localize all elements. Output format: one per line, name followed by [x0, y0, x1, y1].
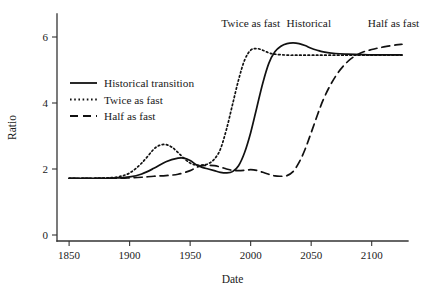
annotation-half-as-fast: Half as fast: [368, 17, 420, 29]
x-tick-label: 1900: [119, 249, 142, 261]
legend-label-half-as-fast: Half as fast: [104, 110, 156, 122]
x-tick-label: 1950: [179, 249, 202, 261]
y-tick-label: 6: [43, 31, 49, 43]
x-axis-ticks: 185019001950200020502100: [58, 241, 383, 261]
x-tick-label: 2050: [300, 249, 323, 261]
x-tick-label: 2100: [361, 249, 384, 261]
annotation-twice-as-fast: Twice as fast: [221, 17, 281, 29]
y-tick-label: 4: [43, 97, 49, 109]
chart-figure: 0246 185019001950200020502100 Twice as f…: [0, 0, 427, 300]
y-axis-title: Ratio: [6, 115, 18, 140]
x-tick-label: 1850: [58, 249, 81, 261]
x-axis-title: Date: [222, 273, 244, 285]
y-axis-ticks: 0246: [43, 31, 58, 241]
y-tick-label: 2: [43, 163, 49, 175]
legend-label-historical-transition: Historical transition: [104, 77, 194, 89]
y-tick-label: 0: [43, 229, 49, 241]
x-tick-label: 2000: [240, 249, 263, 261]
annotation-historical: Historical: [286, 17, 331, 29]
legend-label-twice-as-fast: Twice as fast: [104, 94, 164, 106]
axes-group: [57, 14, 408, 241]
curve-annotations: Twice as fastHistoricalHalf as fast: [221, 17, 420, 29]
chart-legend: Historical transitionTwice as fastHalf a…: [70, 77, 194, 122]
ratio-over-time-line-chart: 0246 185019001950200020502100 Twice as f…: [0, 0, 427, 300]
